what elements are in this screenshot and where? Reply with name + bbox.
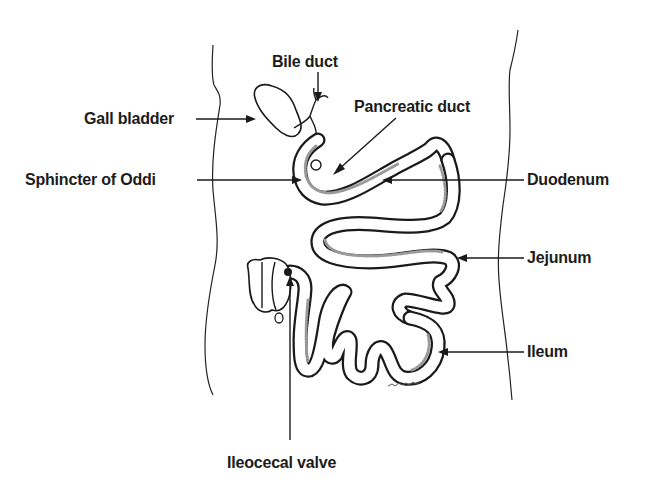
label-bile-duct: Bile duct bbox=[272, 54, 338, 70]
label-sphincter-of-oddi: Sphincter of Oddi bbox=[25, 172, 156, 188]
label-duodenum: Duodenum bbox=[527, 172, 609, 188]
leader-gall-bladder bbox=[196, 115, 256, 123]
label-pancreatic-duct: Pancreatic duct bbox=[354, 99, 470, 115]
label-jejunum: Jejunum bbox=[527, 250, 591, 266]
label-gall-bladder: Gall bladder bbox=[84, 111, 174, 127]
label-ileocecal-valve: Ileocecal valve bbox=[227, 455, 336, 471]
body-outline-left bbox=[205, 45, 220, 395]
leader-jejunum bbox=[457, 254, 524, 262]
duodenum-shape bbox=[300, 140, 448, 198]
cecum-shape bbox=[248, 258, 292, 323]
body-outline-right bbox=[498, 30, 518, 400]
gall-bladder bbox=[254, 85, 301, 137]
leader-ileum bbox=[438, 348, 524, 356]
ileum-shape bbox=[290, 272, 438, 378]
anatomy-diagram: Bile duct Gall bladder Pancreatic duct S… bbox=[0, 0, 651, 497]
label-ileum: Ileum bbox=[527, 344, 568, 360]
